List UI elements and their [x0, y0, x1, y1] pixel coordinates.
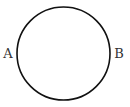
diagram-canvas: A B [0, 0, 130, 107]
point-label-a: A [2, 46, 13, 61]
circle [17, 7, 110, 100]
point-label-b: B [114, 46, 124, 61]
